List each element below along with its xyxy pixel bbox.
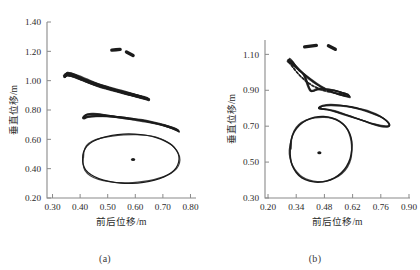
y-tick-label: 0.20 xyxy=(25,193,41,203)
trace-upper-descending-loop xyxy=(64,74,149,100)
x-tick-label: 0.30 xyxy=(44,202,60,212)
x-tick-label: 0.34 xyxy=(288,202,304,212)
center-marker-dot xyxy=(317,151,321,154)
x-axis-tick-labels-b: 0.200.340.480.620.760.90 xyxy=(260,202,417,212)
upper-dark-blob xyxy=(126,52,133,56)
upper-dark-blob xyxy=(112,49,120,50)
panel-b: 0.300.500.700.901.10 0.200.340.480.620.7… xyxy=(210,0,420,270)
y-tick-label: 0.30 xyxy=(243,193,259,203)
data-traces-b xyxy=(287,45,389,182)
x-tick-label: 0.80 xyxy=(182,202,198,212)
x-tick-label: 0.40 xyxy=(72,202,88,212)
y-tick-label: 0.80 xyxy=(25,105,41,115)
panel-caption-b: (b) xyxy=(210,253,420,264)
data-traces-a xyxy=(64,49,180,183)
y-tick-label: 0.50 xyxy=(243,157,259,167)
panel-caption-a: (a) xyxy=(0,253,210,264)
panel-a: 0.200.400.600.801.001.201.40 0.300.400.5… xyxy=(0,0,210,270)
y-tick-label: 1.00 xyxy=(25,76,41,86)
y-axis-tick-labels-a: 0.200.400.600.801.001.201.40 xyxy=(25,17,41,203)
y-axis-tick-labels-b: 0.300.500.700.901.10 xyxy=(243,50,259,204)
upper-dark-blob xyxy=(305,45,317,46)
y-tick-label: 1.40 xyxy=(25,17,41,27)
y-tick-label: 0.60 xyxy=(25,135,41,145)
plot-a: 0.200.400.600.801.001.201.40 0.300.400.5… xyxy=(0,0,210,250)
x-axis-label-a: 前后位移/m xyxy=(96,216,147,227)
trace-upper-crescent-loop xyxy=(287,60,350,98)
x-tick-label: 0.60 xyxy=(127,202,143,212)
trace-large-circle-loop xyxy=(289,117,351,181)
x-tick-label: 0.70 xyxy=(155,202,171,212)
x-tick-label: 0.62 xyxy=(345,202,361,212)
x-axis-tick-labels-a: 0.300.400.500.600.700.80 xyxy=(44,202,198,212)
figure-container: 0.200.400.600.801.001.201.40 0.300.400.5… xyxy=(0,0,420,270)
y-tick-label: 1.20 xyxy=(25,47,41,57)
y-tick-label: 0.90 xyxy=(243,85,259,95)
y-axis-label-b: 垂直位移/m xyxy=(226,93,237,144)
y-axis-label-a: 垂直位移/m xyxy=(8,84,19,135)
x-axis-label-b: 前后位移/m xyxy=(312,216,363,227)
y-tick-label: 1.10 xyxy=(243,50,259,60)
y-tick-label: 0.40 xyxy=(25,164,41,174)
center-marker-dot xyxy=(131,158,135,161)
trace-middle-thin-loop xyxy=(83,115,180,132)
x-tick-label: 0.20 xyxy=(260,202,276,212)
x-tick-label: 0.48 xyxy=(316,202,332,212)
x-tick-label: 0.90 xyxy=(401,202,417,212)
x-tick-label: 0.76 xyxy=(373,202,389,212)
trace-upper-crescent-loop xyxy=(288,59,349,96)
axis-spines-b xyxy=(265,40,410,198)
upper-dark-blob xyxy=(328,46,335,50)
trace-upper-crescent-loop xyxy=(289,59,349,96)
plot-b: 0.300.500.700.901.10 0.200.340.480.620.7… xyxy=(210,0,420,250)
y-tick-label: 0.70 xyxy=(243,121,259,131)
x-tick-label: 0.50 xyxy=(100,202,116,212)
